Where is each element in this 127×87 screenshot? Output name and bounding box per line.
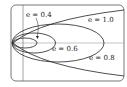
leader-line-e-0-4 bbox=[36, 18, 38, 37]
label-e-0-4: e = 0.4 bbox=[26, 11, 52, 19]
label-e-0-8: e = 0.8 bbox=[89, 54, 115, 62]
label-e-1-0: e = 1.0 bbox=[88, 16, 114, 24]
arrowhead-e-0-4 bbox=[36, 36, 39, 39]
label-e-0-6: e = 0.6 bbox=[52, 45, 78, 53]
conic-eccentricity-diagram: e = 0.4 e = 1.0 e = 0.6 e = 0.8 bbox=[0, 0, 127, 87]
